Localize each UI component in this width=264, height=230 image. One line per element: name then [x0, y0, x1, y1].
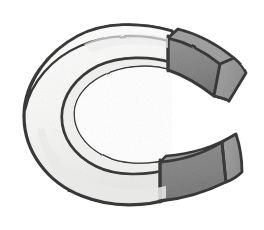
horseshoe-magnet-illustration: Horseshoe Magnet Hand-drawn pencil sketc… [0, 0, 264, 230]
drawing-canvas: Horseshoe Magnet Hand-drawn pencil sketc… [0, 0, 264, 230]
